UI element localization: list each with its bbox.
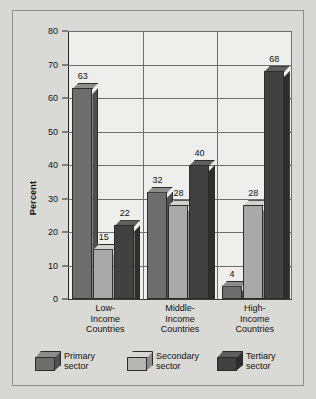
bar-value-label: 32 <box>152 175 162 185</box>
gridline-0 <box>68 299 292 300</box>
bar-front-face <box>114 225 134 299</box>
legend-label-line-1: Tertiary <box>246 351 276 361</box>
bar-secondary-3[interactable]: 28 <box>243 205 263 299</box>
legend-label-line-1: Primary <box>64 351 95 361</box>
bar-primary-2[interactable]: 32 <box>147 192 167 299</box>
x-axis-label-line-1: Low- <box>68 303 143 314</box>
legend-cube-front-face <box>127 357 147 371</box>
x-axis-label-1: Low-IncomeCountries <box>68 303 143 335</box>
bar-value-label: 28 <box>248 188 258 198</box>
bar-value-label: 63 <box>78 71 88 81</box>
y-tick-label-40: 40 <box>48 160 61 170</box>
bar-top-face <box>189 160 215 166</box>
chart-legend: PrimarysectorSecondarysectorTertiarysect… <box>35 351 297 383</box>
bar-top-face <box>72 83 98 89</box>
legend-label: Secondarysector <box>156 351 199 371</box>
bar-value-label: 28 <box>173 188 183 198</box>
bar-primary-3[interactable]: 4 <box>222 286 242 299</box>
legend-label-line-2: sector <box>246 361 276 371</box>
x-axis-label-line-3: Countries <box>68 324 143 335</box>
legend-item-secondary[interactable]: Secondarysector <box>127 351 199 371</box>
legend-cube-front-face <box>217 357 237 371</box>
y-tick-label-30: 30 <box>48 194 61 204</box>
bar-secondary-2[interactable]: 28 <box>168 205 188 299</box>
chart-panel: Percent 01020304050607080 63152232284042… <box>12 10 304 386</box>
y-tick-label-20: 20 <box>48 227 61 237</box>
bar-front-face <box>243 205 263 299</box>
bar-secondary-1[interactable]: 15 <box>93 249 113 299</box>
legend-cube-icon <box>217 351 243 371</box>
legend-label-line-2: sector <box>156 361 199 371</box>
y-tick-label-60: 60 <box>48 93 61 103</box>
legend-label: Tertiarysector <box>246 351 276 371</box>
legend-cube-icon <box>35 351 61 371</box>
legend-cube-icon <box>127 351 153 371</box>
y-tick-label-10: 10 <box>48 261 61 271</box>
x-axis-label-3: High-IncomeCountries <box>217 303 292 335</box>
bar-front-face <box>147 192 167 299</box>
bar-front-face <box>93 249 113 299</box>
bar-value-label: 68 <box>269 54 279 64</box>
legend-item-tertiary[interactable]: Tertiarysector <box>217 351 276 371</box>
bar-tertiary-3[interactable]: 68 <box>264 71 284 299</box>
bar-group-3: 42868 <box>217 31 292 299</box>
x-axis-labels: Low-IncomeCountriesMiddle-IncomeCountrie… <box>68 303 292 345</box>
x-axis-label-line-2: Income <box>143 314 218 325</box>
bar-group-1: 631522 <box>68 31 143 299</box>
bar-side-face <box>134 225 140 299</box>
bar-value-label: 40 <box>194 148 204 158</box>
bar-group-2: 322840 <box>143 31 218 299</box>
bar-front-face <box>72 88 92 299</box>
x-axis-label-line-2: Income <box>217 314 292 325</box>
bar-side-face <box>284 71 290 299</box>
bar-side-face <box>209 165 215 299</box>
x-axis-label-line-2: Income <box>68 314 143 325</box>
y-tick-label-0: 0 <box>53 294 61 304</box>
bar-top-face <box>147 187 173 193</box>
bar-front-face <box>264 71 284 299</box>
x-axis-label-2: Middle-IncomeCountries <box>143 303 218 335</box>
legend-cube-front-face <box>35 357 55 371</box>
y-axis-title: Percent <box>28 181 38 215</box>
legend-label: Primarysector <box>64 351 95 371</box>
legend-label-line-2: sector <box>64 361 95 371</box>
x-axis-label-line-1: High- <box>217 303 292 314</box>
bar-value-label: 4 <box>229 269 234 279</box>
bar-top-face <box>114 220 140 226</box>
bar-tertiary-2[interactable]: 40 <box>189 165 209 299</box>
legend-label-line-1: Secondary <box>156 351 199 361</box>
bar-value-label: 15 <box>99 232 109 242</box>
y-tick-label-80: 80 <box>48 26 61 36</box>
x-axis-label-line-3: Countries <box>217 324 292 335</box>
bar-primary-1[interactable]: 63 <box>72 88 92 299</box>
bar-front-face <box>222 286 242 299</box>
bar-tertiary-1[interactable]: 22 <box>114 225 134 299</box>
y-tick-label-70: 70 <box>48 60 61 70</box>
bar-front-face <box>189 165 209 299</box>
legend-item-primary[interactable]: Primarysector <box>35 351 95 371</box>
bar-top-face <box>264 66 290 72</box>
chart-page: Percent 01020304050607080 63152232284042… <box>0 0 316 399</box>
bar-value-label: 22 <box>120 208 130 218</box>
x-axis-label-line-1: Middle- <box>143 303 218 314</box>
plot-area: 01020304050607080 63152232284042868 <box>68 31 292 299</box>
x-axis-label-line-3: Countries <box>143 324 218 335</box>
bar-front-face <box>168 205 188 299</box>
y-tick-label-50: 50 <box>48 127 61 137</box>
